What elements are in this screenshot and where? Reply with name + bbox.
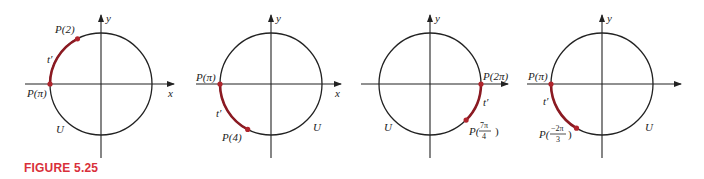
fraction-numerator: 7π — [480, 121, 488, 130]
y-axis-label: y — [434, 12, 440, 24]
y-axis-label: y — [275, 12, 281, 24]
point-end — [245, 127, 250, 132]
end-point-prefix: P( — [538, 128, 551, 141]
arc-t-prime — [551, 84, 577, 128]
point-start — [217, 81, 222, 86]
circle-label: U — [384, 121, 393, 133]
end-point-label: P( 7π 4 ) — [468, 121, 499, 141]
fraction-denominator: 3 — [556, 135, 560, 144]
circle-label: U — [313, 121, 322, 133]
arc-label: t′ — [47, 53, 53, 65]
panel-2: y x P(π) t′ P(4) U — [195, 12, 341, 158]
end-point-label: P(4) — [221, 131, 242, 144]
y-axis-label: y — [606, 12, 612, 24]
end-point-prefix: P( — [468, 125, 481, 138]
start-point-label: P(π) — [26, 87, 47, 100]
unit-circle-figure: y x P(2) t′ P(π) U y x P(π) t′ P(4) U y … — [0, 0, 704, 179]
point-start — [548, 81, 553, 86]
arc-t-prime — [220, 84, 248, 129]
arc-label: t′ — [483, 96, 489, 108]
figure-caption: FIGURE 5.25 — [24, 161, 98, 175]
arc-label: t′ — [216, 107, 222, 119]
panel-1: y x P(2) t′ P(π) U — [25, 12, 174, 158]
end-point-suffix: ) — [495, 125, 499, 138]
point-start — [47, 81, 52, 86]
circle-label: U — [645, 121, 654, 133]
x-axis-label: x — [334, 87, 340, 99]
start-point-label: P(2π) — [482, 70, 508, 83]
end-point-suffix: ) — [568, 128, 572, 141]
fraction-numerator: −2π — [551, 124, 564, 133]
point-start — [478, 81, 483, 86]
start-point-label: P(π) — [527, 70, 548, 83]
x-axis-label: x — [167, 87, 173, 99]
fraction-denominator: 4 — [482, 132, 486, 141]
arc-t-prime — [466, 84, 481, 120]
start-point-label: P(π) — [195, 71, 216, 84]
end-point-label: P( −2π 3 ) — [538, 124, 572, 144]
panel-3: y P(2π) t′ U P( 7π 4 ) — [361, 12, 508, 158]
end-point-label: P(2) — [54, 23, 75, 36]
circle-label: U — [56, 123, 65, 135]
point-end — [464, 118, 469, 123]
point-end — [574, 126, 579, 131]
y-axis-label: y — [105, 12, 111, 24]
arc-t-prime — [50, 39, 78, 84]
panel-4: y P(π) t′ U P( −2π 3 ) — [527, 12, 681, 158]
arc-label: t′ — [543, 95, 549, 107]
point-end — [75, 36, 80, 41]
